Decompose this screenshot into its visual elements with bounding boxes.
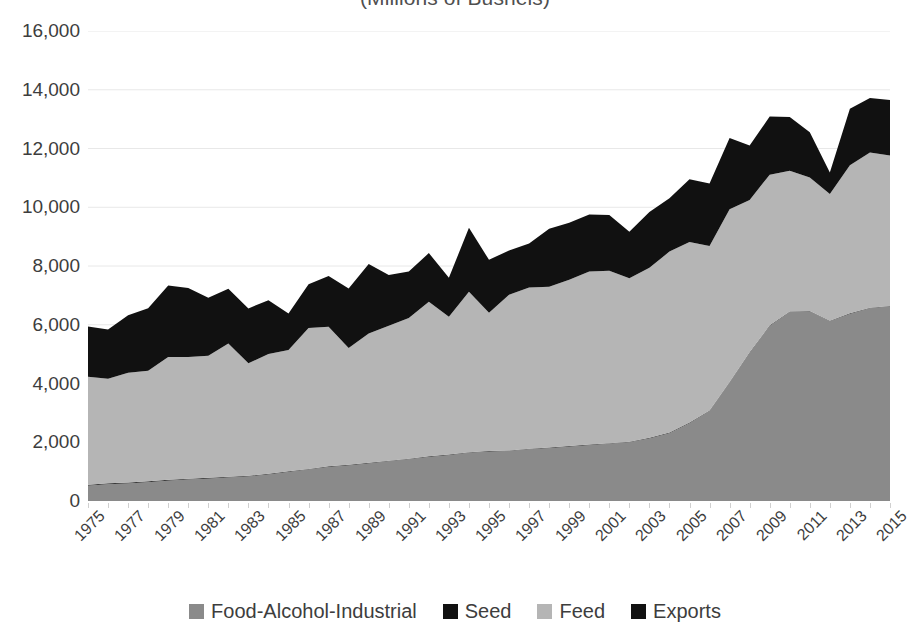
y-axis-tick-label: 12,000 bbox=[0, 138, 80, 160]
x-axis-tick-mark bbox=[88, 503, 89, 508]
y-axis-tick-label: 8,000 bbox=[0, 255, 80, 277]
x-axis-tick-mark bbox=[870, 503, 871, 508]
legend-label: Feed bbox=[559, 600, 605, 623]
x-axis-tick-mark bbox=[810, 503, 811, 508]
chart-title: (Millions of Bushels) bbox=[0, 0, 910, 10]
x-axis-tick-label: 2011 bbox=[784, 507, 831, 554]
x-axis-tick-label: 1983 bbox=[222, 507, 269, 554]
x-axis-tick-mark bbox=[469, 503, 470, 508]
x-axis-tick-mark bbox=[529, 503, 530, 508]
legend-label: Exports bbox=[653, 600, 721, 623]
y-axis-tick-label: 6,000 bbox=[0, 314, 80, 336]
legend-swatch-icon bbox=[443, 604, 458, 619]
x-axis: 1975197719791981198319851987198919911993… bbox=[88, 503, 890, 573]
x-axis-tick-mark bbox=[329, 503, 330, 508]
y-axis-tick-label: 4,000 bbox=[0, 373, 80, 395]
legend-swatch-icon bbox=[537, 604, 552, 619]
x-axis-tick-label: 1995 bbox=[463, 507, 510, 554]
x-axis-tick-label: 2009 bbox=[744, 507, 791, 554]
x-axis-tick-mark bbox=[369, 503, 370, 508]
x-axis-tick-label: 2005 bbox=[664, 507, 711, 554]
legend-swatch-icon bbox=[189, 604, 204, 619]
x-axis-tick-label: 1989 bbox=[343, 507, 390, 554]
x-axis-tick-mark bbox=[629, 503, 630, 508]
legend-item[interactable]: Food-Alcohol-Industrial bbox=[189, 600, 417, 623]
x-axis-tick-mark bbox=[549, 503, 550, 508]
x-axis-tick-mark bbox=[489, 503, 490, 508]
legend-label: Food-Alcohol-Industrial bbox=[211, 600, 417, 623]
plot-area bbox=[88, 31, 890, 501]
chart-legend: Food-Alcohol-IndustrialSeedFeedExports bbox=[0, 600, 910, 623]
x-axis-tick-mark bbox=[609, 503, 610, 508]
plot-svg bbox=[88, 31, 890, 501]
x-axis-tick-mark bbox=[589, 503, 590, 508]
x-axis-tick-mark bbox=[108, 503, 109, 508]
x-axis-tick-mark bbox=[389, 503, 390, 508]
legend-item[interactable]: Exports bbox=[631, 600, 721, 623]
x-axis-tick-mark bbox=[268, 503, 269, 508]
x-axis-tick-label: 1975 bbox=[62, 507, 109, 554]
legend-label: Seed bbox=[465, 600, 512, 623]
x-axis-tick-label: 2015 bbox=[864, 507, 910, 554]
x-axis-tick-mark bbox=[168, 503, 169, 508]
x-axis-tick-mark bbox=[208, 503, 209, 508]
y-axis-tick-label: 2,000 bbox=[0, 431, 80, 453]
legend-item[interactable]: Feed bbox=[537, 600, 605, 623]
x-axis-tick-mark bbox=[409, 503, 410, 508]
x-axis-tick-mark bbox=[730, 503, 731, 508]
x-axis-tick-mark bbox=[750, 503, 751, 508]
x-axis-tick-mark bbox=[228, 503, 229, 508]
x-axis-tick-label: 1979 bbox=[142, 507, 189, 554]
y-axis-tick-label: 16,000 bbox=[0, 20, 80, 42]
x-axis-tick-label: 1985 bbox=[263, 507, 310, 554]
x-axis-tick-label: 1987 bbox=[303, 507, 350, 554]
x-axis-tick-mark bbox=[850, 503, 851, 508]
x-axis-tick-mark bbox=[569, 503, 570, 508]
x-axis-tick-mark bbox=[690, 503, 691, 508]
y-axis-tick-label: 0 bbox=[0, 490, 80, 512]
x-axis-tick-mark bbox=[649, 503, 650, 508]
x-axis-tick-label: 1999 bbox=[543, 507, 590, 554]
x-axis-tick-label: 2007 bbox=[704, 507, 751, 554]
x-axis-tick-mark bbox=[669, 503, 670, 508]
x-axis-tick-mark bbox=[710, 503, 711, 508]
x-axis-tick-label: 1977 bbox=[102, 507, 149, 554]
x-axis-tick-mark bbox=[188, 503, 189, 508]
x-axis-tick-mark bbox=[449, 503, 450, 508]
x-axis-tick-mark bbox=[509, 503, 510, 508]
legend-swatch-icon bbox=[631, 604, 646, 619]
x-axis-tick-mark bbox=[890, 503, 891, 508]
x-axis-tick-mark bbox=[429, 503, 430, 508]
x-axis-tick-label: 1981 bbox=[182, 507, 229, 554]
x-axis-tick-mark bbox=[148, 503, 149, 508]
x-axis-tick-mark bbox=[309, 503, 310, 508]
x-axis-tick-mark bbox=[830, 503, 831, 508]
x-axis-tick-label: 1997 bbox=[503, 507, 550, 554]
x-axis-tick-label: 2013 bbox=[824, 507, 871, 554]
x-axis-tick-label: 2001 bbox=[583, 507, 630, 554]
x-axis-tick-label: 1993 bbox=[423, 507, 470, 554]
x-axis-tick-mark bbox=[770, 503, 771, 508]
x-axis-tick-label: 1991 bbox=[383, 507, 430, 554]
y-axis-tick-label: 10,000 bbox=[0, 196, 80, 218]
stacked-area-chart: (Millions of Bushels) 16,00014,00012,000… bbox=[0, 0, 910, 639]
y-axis-tick-label: 14,000 bbox=[0, 79, 80, 101]
x-axis-tick-mark bbox=[248, 503, 249, 508]
x-axis-tick-label: 2003 bbox=[623, 507, 670, 554]
x-axis-tick-mark bbox=[128, 503, 129, 508]
x-axis-tick-mark bbox=[349, 503, 350, 508]
x-axis-tick-mark bbox=[790, 503, 791, 508]
legend-item[interactable]: Seed bbox=[443, 600, 512, 623]
y-axis: 16,00014,00012,00010,0008,0006,0004,0002… bbox=[0, 31, 80, 501]
x-axis-tick-mark bbox=[289, 503, 290, 508]
